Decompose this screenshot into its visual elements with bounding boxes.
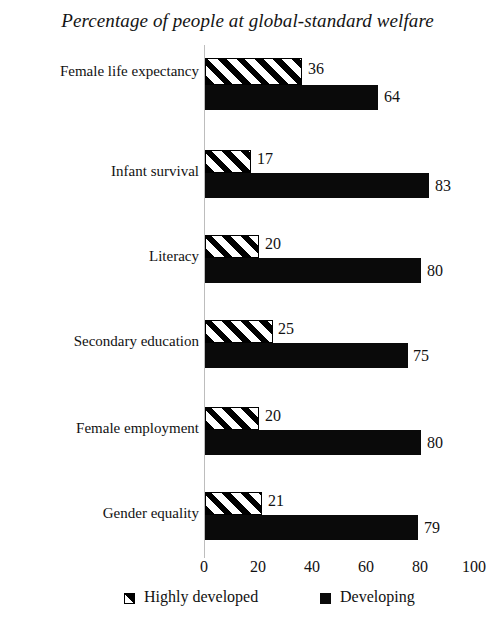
bar-group: Infant survival 17 83: [0, 150, 495, 198]
bar-value-developing: 75: [413, 347, 429, 365]
bar-row-developing: 83: [205, 173, 429, 198]
plot-area: Female life expectancy 36 64 Infant surv…: [0, 0, 495, 644]
bar-value-highly-developed: 21: [268, 492, 284, 510]
x-tick-label: 0: [200, 558, 208, 576]
bar-row-developing: 80: [205, 430, 421, 455]
bar-group: Gender equality 21 79: [0, 492, 495, 540]
bar-highly-developed: [205, 407, 259, 430]
bar-value-highly-developed: 17: [257, 150, 273, 168]
bar-developing: [205, 258, 421, 283]
x-tick-label: 20: [250, 558, 266, 576]
hatched-square-icon: [124, 593, 135, 604]
bar-value-developing: 64: [384, 88, 400, 106]
category-label: Literacy: [9, 247, 199, 266]
legend-item-highly-developed: Highly developed: [124, 588, 258, 606]
category-label: Female employment: [9, 419, 199, 438]
bar-group: Secondary education 25 75: [0, 320, 495, 368]
bar-row-highly-developed: 25: [205, 320, 273, 343]
solid-square-icon: [320, 593, 331, 604]
legend-label: Developing: [340, 588, 415, 606]
caption-fragment: [8, 628, 495, 644]
x-axis-tick-labels: 0 20 40 60 80 100: [0, 558, 495, 582]
bar-row-developing: 79: [205, 515, 418, 540]
category-label: Infant survival: [9, 162, 199, 181]
bar-row-highly-developed: 20: [205, 407, 259, 430]
x-tick-label: 100: [462, 558, 486, 576]
bar-group: Female life expectancy 36 64: [0, 58, 495, 110]
x-tick-label: 60: [358, 558, 374, 576]
bar-row-highly-developed: 20: [205, 235, 259, 258]
bar-developing: [205, 343, 408, 368]
category-label: Female life expectancy: [9, 62, 199, 81]
category-label: Secondary education: [9, 332, 199, 351]
legend-item-developing: Developing: [320, 588, 415, 606]
chart-figure: Percentage of people at global-standard …: [0, 0, 495, 644]
bar-value-highly-developed: 20: [265, 407, 281, 425]
bar-highly-developed: [205, 58, 302, 85]
bar-row-developing: 64: [205, 85, 378, 110]
bar-group: Literacy 20 80: [0, 235, 495, 283]
bar-value-developing: 80: [427, 434, 443, 452]
bar-row-highly-developed: 21: [205, 492, 262, 515]
bar-developing: [205, 430, 421, 455]
bar-group: Female employment 20 80: [0, 407, 495, 455]
bar-value-developing: 80: [427, 262, 443, 280]
bar-value-highly-developed: 36: [308, 60, 324, 78]
bar-value-highly-developed: 20: [265, 235, 281, 253]
x-tick-label: 40: [304, 558, 320, 576]
bar-highly-developed: [205, 492, 262, 515]
bar-row-highly-developed: 17: [205, 150, 251, 173]
x-tick-label: 80: [412, 558, 428, 576]
bar-value-developing: 79: [424, 519, 440, 537]
bar-developing: [205, 85, 378, 110]
y-axis-line: [204, 45, 205, 558]
bar-row-highly-developed: 36: [205, 58, 302, 85]
bar-developing: [205, 515, 418, 540]
bar-row-developing: 75: [205, 343, 408, 368]
bar-row-developing: 80: [205, 258, 421, 283]
category-label: Gender equality: [9, 504, 199, 523]
legend-label: Highly developed: [144, 588, 258, 606]
bar-developing: [205, 173, 429, 198]
bar-value-developing: 83: [435, 177, 451, 195]
chart-legend: Highly developed Developing: [0, 588, 495, 614]
bar-highly-developed: [205, 235, 259, 258]
bar-highly-developed: [205, 320, 273, 343]
bar-highly-developed: [205, 150, 251, 173]
bar-value-highly-developed: 25: [278, 320, 294, 338]
